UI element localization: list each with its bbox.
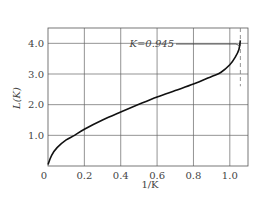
y-tick-label: 1.0 — [28, 130, 44, 141]
y-axis-ticks: 1.02.03.04.0 — [28, 38, 44, 141]
x-tick-label: 0 — [41, 170, 47, 181]
line-chart: 00.20.40.60.81.0 1.02.03.04.0 K=0.945 1/… — [0, 0, 261, 198]
annotation-label: K=0.945 — [129, 38, 174, 49]
x-axis-ticks: 00.20.40.60.81.0 — [41, 170, 238, 181]
x-tick-label: 0.2 — [76, 170, 92, 181]
y-tick-label: 3.0 — [28, 69, 44, 80]
x-tick-label: 1.0 — [222, 170, 238, 181]
x-tick-label: 0.4 — [113, 170, 129, 181]
x-tick-label: 0.8 — [186, 170, 202, 181]
x-axis-label: 1/K — [141, 179, 159, 190]
y-tick-label: 4.0 — [28, 38, 44, 49]
chart-container: 00.20.40.60.81.0 1.02.03.04.0 K=0.945 1/… — [0, 0, 261, 198]
data-curve — [48, 40, 240, 164]
y-axis-label: L(K) — [11, 87, 22, 110]
y-tick-label: 2.0 — [28, 99, 44, 110]
